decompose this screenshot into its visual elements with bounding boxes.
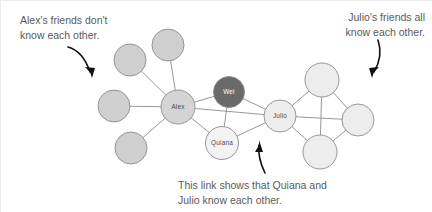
graph-edge <box>333 130 347 141</box>
graph-edge <box>143 118 166 138</box>
node-circle <box>305 63 339 97</box>
graph-node-quiana[interactable]: Quiana <box>206 127 239 160</box>
graph-node[interactable] <box>98 90 130 122</box>
graph-edge <box>292 126 308 141</box>
annotation-alex-line1: Alex's friends don't <box>20 13 107 28</box>
arrow-link-head <box>255 140 263 152</box>
annotation-alex-line2: know each other. <box>20 28 107 43</box>
node-circle <box>98 90 130 122</box>
network-diagram-figure: AlexWeiQuianaJulio Alex's friends don't … <box>0 0 432 212</box>
node-label: Wei <box>223 88 235 95</box>
graph-node[interactable] <box>305 63 339 97</box>
node-circle <box>303 135 337 169</box>
graph-node[interactable] <box>342 104 374 136</box>
annotation-alex-friends: Alex's friends don't know each other. <box>20 13 107 42</box>
graph-edge <box>320 96 321 135</box>
graph-node-julio[interactable]: Julio <box>264 100 296 132</box>
graph-edge <box>333 92 348 108</box>
node-circle <box>342 104 374 136</box>
annotation-julio-line2: know each other. <box>346 25 425 40</box>
node-label: Quiana <box>211 139 233 147</box>
graph-edge <box>194 108 264 114</box>
node-circle <box>114 44 146 76</box>
annotation-julio-line1: Julio's friends all <box>346 10 425 25</box>
graph-edge <box>141 71 166 96</box>
graph-edge <box>170 60 175 90</box>
graph-node-wei[interactable]: Wei <box>214 77 245 108</box>
annotation-quiana-julio-link: This link shows that Quiana and Julio kn… <box>178 178 327 207</box>
nodes-layer: AlexWeiQuianaJulio <box>98 29 374 169</box>
graph-edge <box>224 107 227 127</box>
graph-edge <box>243 98 266 109</box>
graph-node[interactable] <box>114 44 146 76</box>
graph-node[interactable] <box>303 135 337 169</box>
node-circle <box>152 29 184 61</box>
graph-edge <box>237 123 266 137</box>
graph-edge <box>295 117 342 119</box>
graph-edge <box>191 117 210 132</box>
graph-edge <box>292 91 310 106</box>
graph-edge <box>194 96 215 102</box>
annotation-link-line2: Julio know each other. <box>178 193 327 208</box>
graph-node[interactable] <box>115 132 147 164</box>
graph-edge <box>130 106 162 107</box>
node-circle <box>115 132 147 164</box>
graph-node-alex[interactable]: Alex <box>161 90 195 124</box>
graph-node[interactable] <box>152 29 184 61</box>
node-label: Julio <box>273 112 287 119</box>
annotation-julio-friends: Julio's friends all know each other. <box>346 10 425 39</box>
annotation-link-line1: This link shows that Quiana and <box>178 178 327 193</box>
node-label: Alex <box>171 103 185 110</box>
